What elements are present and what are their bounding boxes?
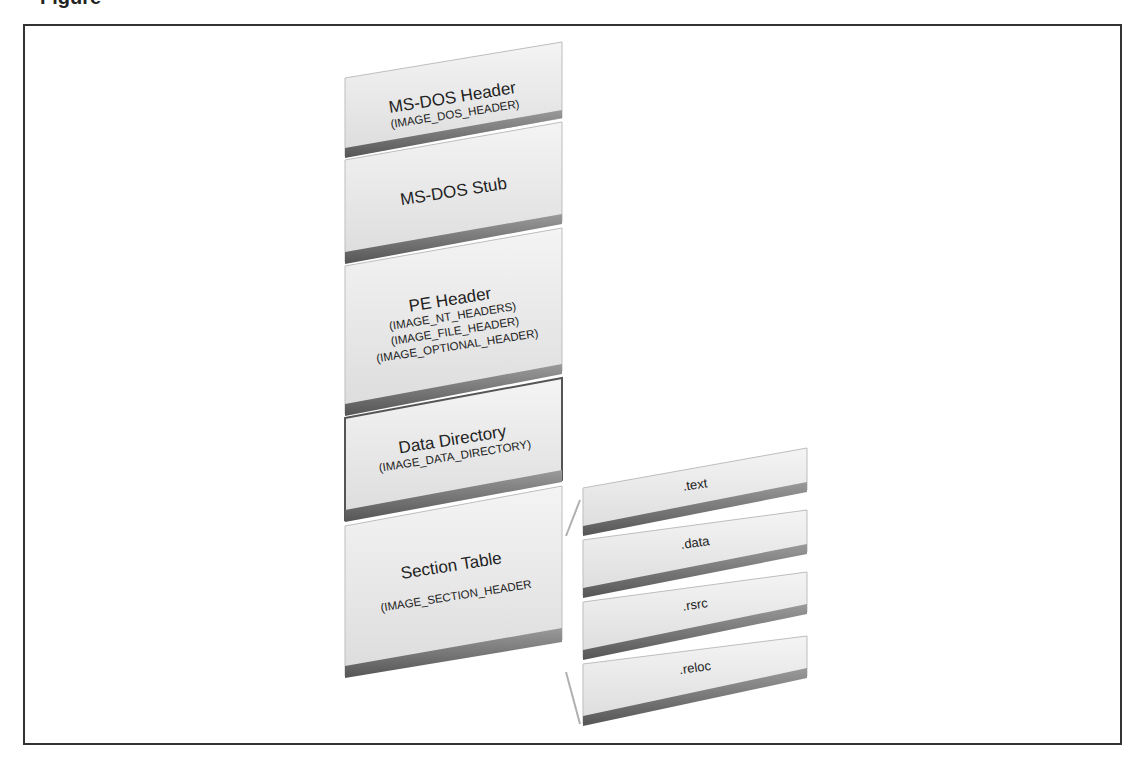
connector-bottom xyxy=(566,672,580,724)
connector-top xyxy=(566,500,580,536)
pe-format-diagram xyxy=(0,0,1138,763)
